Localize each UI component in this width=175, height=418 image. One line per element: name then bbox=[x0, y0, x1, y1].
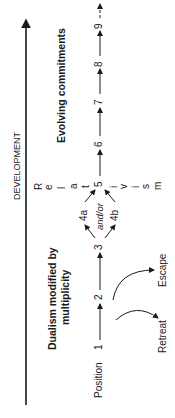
position-2: 2 bbox=[94, 294, 104, 300]
retreat-label: Retreat bbox=[158, 320, 168, 353]
relativism-letter: m bbox=[153, 182, 163, 190]
phase-dualism-label: Dualism modified by bbox=[47, 247, 58, 350]
position-3: 3 bbox=[94, 244, 104, 250]
position-8: 8 bbox=[94, 61, 104, 67]
relativism-letter: s bbox=[141, 184, 151, 189]
relativism-letter: v bbox=[119, 184, 129, 189]
escape-label: Escape bbox=[158, 254, 168, 287]
relativism-letter: a bbox=[69, 183, 79, 189]
relativism-letter: e bbox=[44, 184, 54, 190]
relativism-letter: t bbox=[81, 185, 91, 188]
relativism-letter: l bbox=[57, 187, 67, 189]
position-9: 9 bbox=[94, 23, 104, 29]
position-5: 5 bbox=[94, 181, 104, 187]
position-1: 1 bbox=[94, 344, 104, 350]
position-4a: 4a bbox=[79, 210, 89, 221]
position-6: 6 bbox=[94, 141, 104, 147]
position-4b: 4b bbox=[110, 210, 120, 221]
phase-dualism-label-line2: multiplicity bbox=[60, 270, 71, 325]
phase-commitments-label: Evolving commitments bbox=[56, 28, 67, 143]
branch-connector: and/or bbox=[95, 203, 105, 230]
axis-label: DEVELOPMENT bbox=[13, 132, 22, 200]
position-7: 7 bbox=[94, 99, 104, 105]
position-label: Position bbox=[94, 362, 104, 398]
